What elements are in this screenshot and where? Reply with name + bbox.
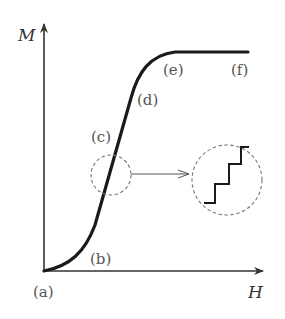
barkhausen-steps — [204, 147, 249, 203]
y-axis-label: M — [17, 25, 36, 45]
label-c: (c) — [91, 128, 111, 146]
label-e: (e) — [163, 61, 184, 79]
inset-circle — [192, 145, 262, 215]
zoom-region-circle — [91, 155, 131, 195]
x-axis-label: H — [247, 282, 264, 302]
label-a: (a) — [33, 283, 54, 301]
label-f: (f) — [231, 61, 248, 79]
magnetization-diagram: M H (a) (b) (c) (d) (e) (f) — [0, 0, 285, 319]
label-b: (b) — [90, 250, 111, 268]
magnetization-curve — [44, 52, 248, 271]
label-d: (d) — [137, 91, 158, 109]
